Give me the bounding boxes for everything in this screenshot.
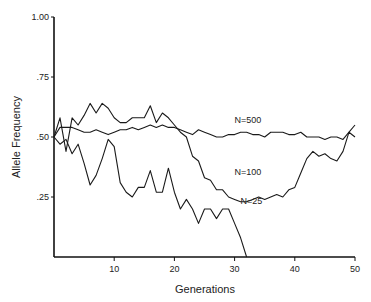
series-line-n500 [54,125,355,139]
series-line-n25 [54,137,247,257]
series-label-n100: N=100 [235,167,262,177]
x-tick-label: 20 [169,264,179,274]
y-tick-label: .75 [36,72,49,82]
y-tick-label: .25 [36,192,49,202]
series-label-n500: N=500 [235,115,262,125]
x-tick-label: 30 [230,264,240,274]
series-labels: N=500N=100N=25 [235,115,263,207]
axes: .25.50.751.001020304050 [31,12,360,274]
series-label-n25: N=25 [241,196,263,206]
series-lines [54,103,355,257]
x-tick-label: 40 [290,264,300,274]
y-axis-title: Allele Frequency [10,96,22,178]
y-tick-label: .50 [36,132,49,142]
allele-frequency-chart: .25.50.751.001020304050 N=500N=100N=25 G… [0,0,371,302]
x-axis-title: Generations [175,283,235,295]
x-tick-label: 10 [109,264,119,274]
x-tick-label: 50 [350,264,360,274]
y-tick-label: 1.00 [31,12,49,22]
series-line-n100 [54,103,355,201]
